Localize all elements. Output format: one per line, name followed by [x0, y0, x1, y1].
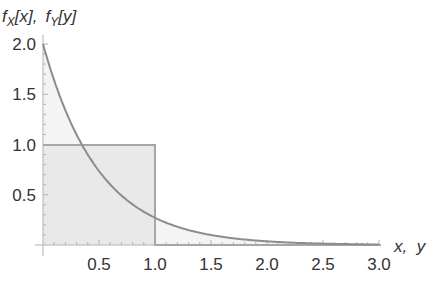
y-tick-label: 0.5	[12, 186, 36, 205]
x-tick-label: 2.0	[255, 255, 279, 274]
x-axis-title: x, y	[393, 237, 427, 256]
x-tick-label: 1.5	[199, 255, 223, 274]
chart: 0.5 1.0 1.5 2.0 0.5 1.0 1.5 2.0 2.5 3.0 …	[0, 0, 441, 281]
x-tick-label: 1.0	[143, 255, 167, 274]
x-tick-label: 0.5	[87, 255, 111, 274]
x-tick-label: 3.0	[367, 255, 391, 274]
x-tick-label: 2.5	[311, 255, 335, 274]
y-tick-label: 2.0	[12, 35, 36, 54]
uniform-fill	[43, 145, 155, 245]
y-tick-label: 1.5	[12, 85, 36, 104]
y-tick-label: 1.0	[12, 136, 36, 155]
y-axis-title: fX[x],fY[y]	[2, 7, 77, 29]
